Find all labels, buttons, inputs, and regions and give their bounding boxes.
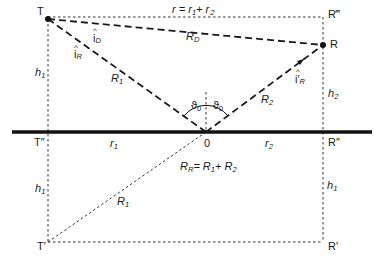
- label-R: R: [330, 38, 338, 50]
- label-R-top: R‴: [328, 8, 340, 20]
- label-T-ground: T″: [34, 136, 45, 148]
- label-T-image: T′: [37, 240, 46, 252]
- label-i-D: iD: [93, 32, 101, 45]
- label-r-total: r = r1+ r2: [172, 3, 215, 17]
- two-ray-diagram: T R R‴ T″ R″ T′ R′ 0 r = r1+ r2 RD ^ iD …: [0, 0, 382, 262]
- label-h1-lower-right: h1: [327, 179, 337, 193]
- transmitter-point: [45, 16, 51, 22]
- label-R1-lower: R1: [117, 195, 129, 209]
- label-T: T: [37, 5, 44, 17]
- label-R-image: R′: [328, 240, 338, 252]
- incident-ray: [48, 19, 206, 132]
- label-h1-lower-left: h1: [35, 182, 45, 196]
- label-RR-equation: RR= R1+ R2: [180, 160, 237, 174]
- label-i-R-prime: i′R: [295, 73, 306, 86]
- image-ray-line: [48, 132, 206, 242]
- reflected-ray: [206, 45, 323, 132]
- label-r1: r1: [110, 137, 118, 151]
- label-R1-upper: R1: [111, 72, 123, 86]
- label-R-ground: R″: [328, 136, 340, 148]
- label-r2: r2: [265, 137, 274, 151]
- label-R2: R2: [261, 93, 274, 107]
- label-h1-upper: h1: [35, 66, 45, 80]
- label-O: 0: [204, 137, 210, 149]
- label-theta-right: ϑ0: [213, 99, 223, 113]
- label-h2: h2: [328, 87, 339, 101]
- label-theta-left: ϑ0: [191, 99, 201, 113]
- label-R-D: RD: [186, 30, 200, 44]
- label-i-R: iR: [74, 48, 82, 61]
- receiver-point: [320, 42, 326, 48]
